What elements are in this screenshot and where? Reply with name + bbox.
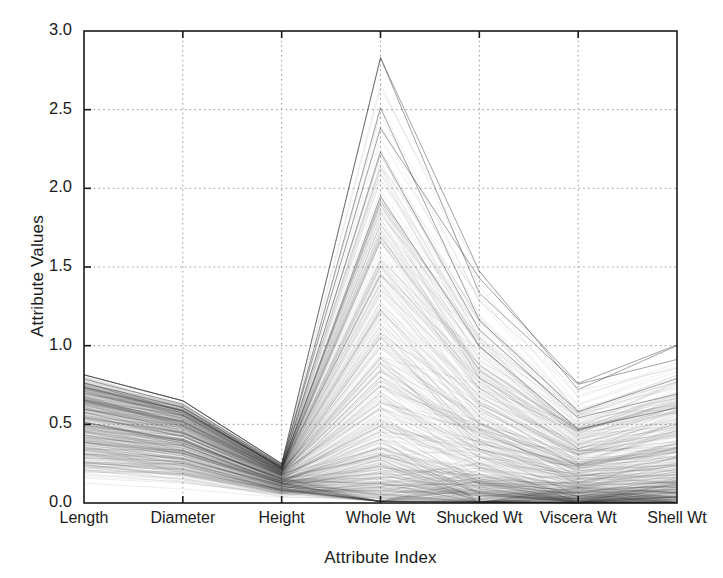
x-axis-tick-label-shucked-wt: Shucked Wt xyxy=(436,509,522,527)
y-axis-title: Attribute Values xyxy=(28,166,48,386)
plot-canvas xyxy=(0,0,723,578)
x-axis-tick-label-viscera-wt: Viscera Wt xyxy=(540,509,617,527)
x-axis-tick-label-diameter: Diameter xyxy=(150,509,215,527)
x-axis-tick-label-whole-wt: Whole Wt xyxy=(346,509,415,527)
y-axis-tick-label: 3.0 xyxy=(20,20,72,39)
x-axis-tick-label-length: Length xyxy=(60,509,109,527)
y-axis-tick-label: 2.5 xyxy=(20,99,72,118)
data-line-series xyxy=(84,58,677,503)
x-axis-title: Attribute Index xyxy=(84,548,677,568)
x-axis-tick-label-shell-wt: Shell Wt xyxy=(647,509,707,527)
x-axis-tick-label-height: Height xyxy=(259,509,305,527)
y-axis-tick-label: 0.5 xyxy=(20,413,72,432)
parallel-coordinates-chart: 0.00.51.01.52.02.53.0 LengthDiameterHeig… xyxy=(0,0,723,578)
